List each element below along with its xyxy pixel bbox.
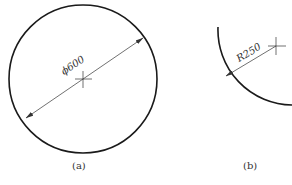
figure-a-diameter-dimension-line <box>26 38 143 118</box>
figure-b-arc <box>218 27 292 105</box>
figure-b-center-mark <box>268 37 286 55</box>
drawing-canvas <box>0 0 292 185</box>
figure-b-caption: (b) <box>243 160 257 171</box>
figure-a-center-mark <box>75 71 92 88</box>
figure-a-caption: (a) <box>72 160 86 171</box>
